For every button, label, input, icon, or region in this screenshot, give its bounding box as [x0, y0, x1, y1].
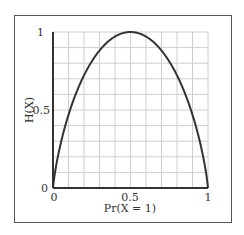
x-tick-0: 0	[51, 191, 58, 204]
y-tick-1: 1	[37, 26, 44, 39]
y-axis-label: H(X)	[23, 97, 36, 123]
x-tick-1: 1	[205, 191, 212, 204]
entropy-chart: 1 0.5 0 0 0.5 1 Pr(X = 1) H(X)	[0, 0, 244, 235]
y-tick-0: 0	[41, 182, 48, 195]
grid	[53, 32, 208, 188]
x-axis-label: Pr(X = 1)	[104, 202, 156, 215]
